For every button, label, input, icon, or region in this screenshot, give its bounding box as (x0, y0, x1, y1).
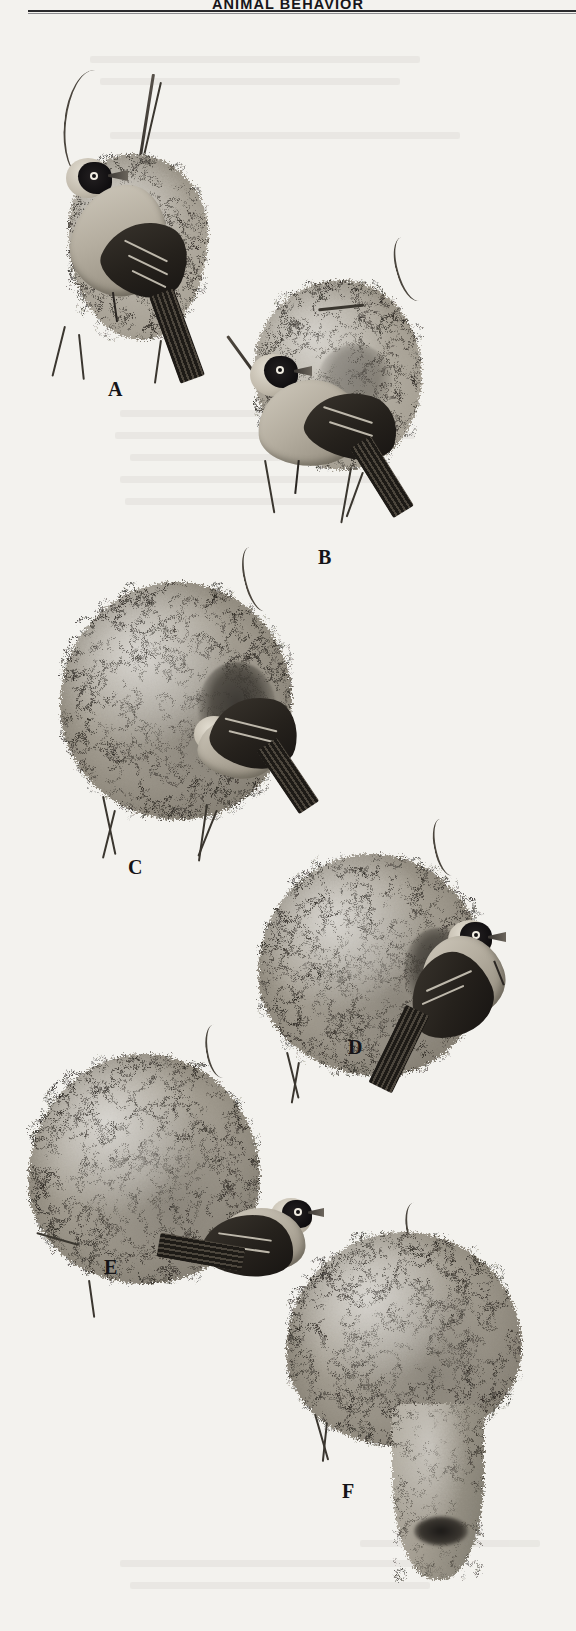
support-twig-e (201, 1022, 234, 1079)
header-rule (28, 10, 576, 12)
bird-d (402, 914, 572, 1104)
figure-weaver-nest-sequence: A (0, 18, 576, 1631)
nest-strand-e2 (88, 1280, 95, 1318)
bird-eye-a (90, 172, 98, 180)
panel-label-d: D (348, 1036, 363, 1059)
scanned-page: ANIMAL BEHAVIOR (0, 0, 576, 1631)
nest-entrance-tube-f (392, 1404, 484, 1580)
panel-label-f: F (342, 1480, 355, 1503)
bird-b (244, 340, 434, 560)
panel-f: F (280, 1198, 576, 1631)
bird-eye-b (276, 366, 284, 374)
panel-label-b: B (318, 546, 332, 569)
panel-label-a: A (108, 378, 123, 401)
support-twig-d (428, 816, 464, 878)
panel-label-e: E (104, 1256, 118, 1279)
bird-leg-b (294, 460, 300, 494)
support-twig-b (387, 233, 432, 304)
nest-tube-opening-f (414, 1516, 468, 1546)
panel-b: B (200, 228, 430, 588)
bird-c (188, 678, 348, 838)
panel-label-c: C (128, 856, 143, 879)
